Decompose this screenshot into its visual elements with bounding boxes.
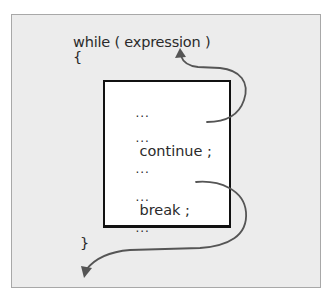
flow-arrows [0,0,331,302]
continue-arrowhead-icon [175,48,186,58]
break-arrowhead-icon [81,266,92,278]
continue-arrow-path [181,56,246,122]
break-arrow-path [86,182,246,270]
